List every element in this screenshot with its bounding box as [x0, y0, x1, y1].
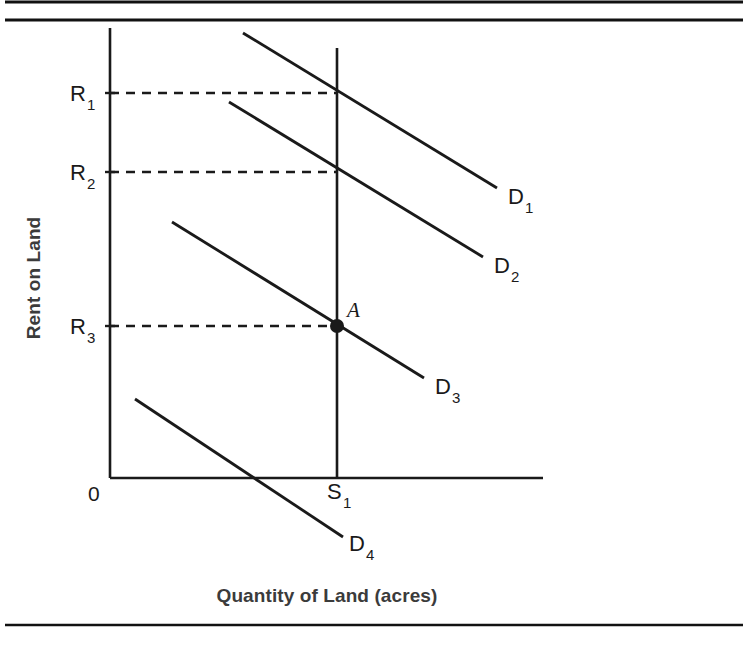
x-tick-label-s1: S [327, 479, 342, 504]
y-axis-title: Rent on Land [23, 217, 44, 340]
y-tick-label-r2: R [70, 160, 86, 185]
demand-curve-d2 [229, 102, 483, 257]
curve-label-d3-subscript: 3 [452, 389, 460, 406]
demand-curves [135, 33, 497, 537]
demand-curve-labels: D1D2D3D4 [349, 184, 533, 563]
x-tick-label-s1-subscript: 1 [343, 494, 351, 511]
y-tick-label-r3: R [70, 314, 86, 339]
curve-label-d2: D [494, 253, 510, 278]
curve-label-d3: D [435, 374, 451, 399]
chart-canvas: A D1D2D3D4 R1R2R3 S 1 0 Quantity of Land… [0, 0, 749, 648]
demand-curve-d4 [135, 399, 343, 537]
curve-label-d2-subscript: 2 [511, 268, 519, 285]
origin-label: 0 [88, 482, 100, 505]
curve-label-d1: D [508, 184, 524, 209]
x-axis-title: Quantity of Land (acres) [217, 585, 438, 606]
point-marker-a [330, 319, 344, 333]
demand-curve-d1 [243, 33, 497, 188]
supply-label-group: S 1 [327, 479, 351, 511]
curve-label-d4: D [349, 531, 365, 556]
curve-label-d4-subscript: 4 [366, 546, 374, 563]
y-tick-label-r3-subscript: 3 [87, 329, 95, 346]
economics-figure: A D1D2D3D4 R1R2R3 S 1 0 Quantity of Land… [0, 0, 749, 648]
curve-label-d1-subscript: 1 [525, 199, 533, 216]
page-frame [5, 2, 743, 625]
y-axis-tick-labels: R1R2R3 [70, 81, 95, 346]
point-label-a: A [345, 298, 360, 322]
dashed-rent-guides [110, 93, 337, 326]
y-tick-label-r2-subscript: 2 [87, 175, 95, 192]
y-tick-label-r1: R [70, 81, 86, 106]
y-tick-label-r1-subscript: 1 [87, 96, 95, 113]
demand-curve-d3 [172, 222, 424, 378]
